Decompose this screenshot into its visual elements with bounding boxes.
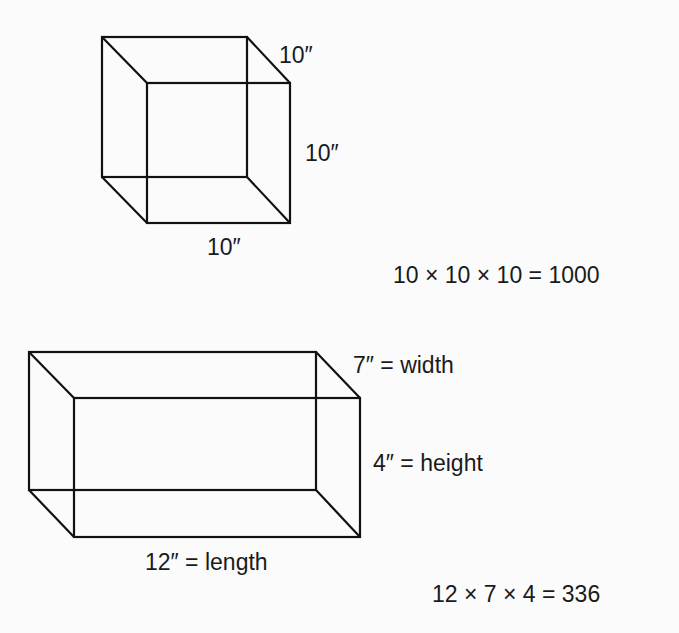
box-length-label: 12″ = length xyxy=(145,551,268,574)
volume-diagram xyxy=(0,0,679,633)
cube-depth-label: 10″ xyxy=(279,44,313,67)
box-volume-equation: 12 × 7 × 4 = 336 xyxy=(432,583,600,606)
rectangular-box-wireframe xyxy=(29,352,360,537)
cube-length-label: 10″ xyxy=(207,236,241,259)
cube-height-label: 10″ xyxy=(305,142,339,165)
cube-wireframe xyxy=(102,37,290,223)
box-width-label: 7″ = width xyxy=(353,354,454,377)
cube-volume-equation: 10 × 10 × 10 = 1000 xyxy=(393,264,600,287)
box-height-label: 4″ = height xyxy=(373,452,483,475)
